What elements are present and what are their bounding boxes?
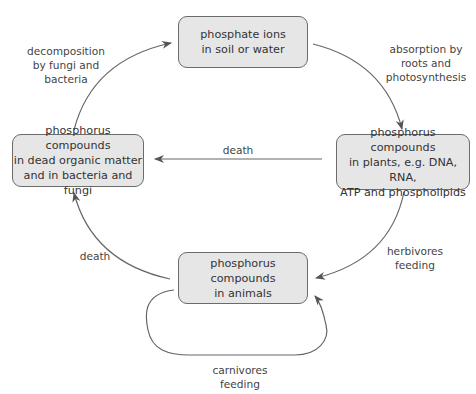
node-label: phosphate ions in soil or water	[200, 27, 286, 57]
label-herbivores: herbivores feeding	[380, 244, 450, 272]
label-carnivores: carnivores feeding	[200, 363, 280, 391]
label-absorption: absorption by roots and photosynthesis	[378, 42, 474, 84]
node-label: phosphorus compounds in dead organic mat…	[13, 123, 143, 198]
node-label: phosphorus compounds in plants, e.g. DNA…	[337, 125, 469, 200]
node-animals: phosphorus compounds in animals	[178, 252, 308, 304]
node-label: phosphorus compounds in animals	[179, 256, 307, 301]
label-death-animals: death	[70, 249, 120, 263]
node-dead-organic-matter: phosphorus compounds in dead organic mat…	[12, 134, 144, 187]
label-death-plants: death	[208, 143, 268, 157]
arrow-death-animals	[74, 193, 170, 279]
node-phosphate-ions: phosphate ions in soil or water	[178, 16, 308, 68]
node-plants: phosphorus compounds in plants, e.g. DNA…	[336, 134, 470, 190]
label-decomposition: decomposition by fungi and bacteria	[24, 44, 108, 86]
